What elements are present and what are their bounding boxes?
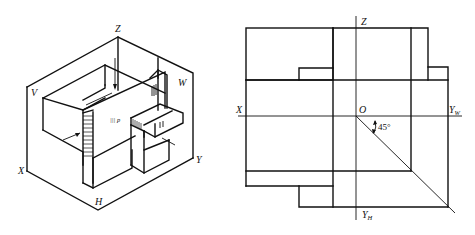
hatch-lines [83, 116, 93, 156]
front-slab [83, 72, 165, 188]
front-view [246, 28, 333, 80]
projection-box [27, 37, 193, 210]
label-x-iso: X [17, 165, 25, 176]
label-yh: YH [362, 209, 373, 221]
label-h: H [94, 196, 103, 207]
top-view [246, 28, 448, 207]
angle-label: 45° [378, 122, 391, 132]
isometric-view: Z V W X Y H ||| p [17, 23, 203, 210]
projection-diagram: Z V W X Y H ||| p [0, 0, 475, 235]
diagonal-45 [356, 116, 455, 213]
label-x-ortho: X [235, 104, 243, 115]
small-box [131, 104, 183, 173]
label-yw: YW [449, 104, 461, 116]
side-view [333, 28, 448, 207]
front-face-mark: ||| p [110, 116, 121, 123]
label-z-iso: Z [115, 23, 121, 34]
label-o: O [359, 104, 366, 115]
orthographic-view: Z X O YW YH 45° [235, 16, 462, 221]
label-z-ortho: Z [361, 16, 367, 27]
label-v: V [31, 87, 39, 98]
label-y-iso: Y [196, 154, 203, 165]
label-w: W [178, 77, 188, 88]
